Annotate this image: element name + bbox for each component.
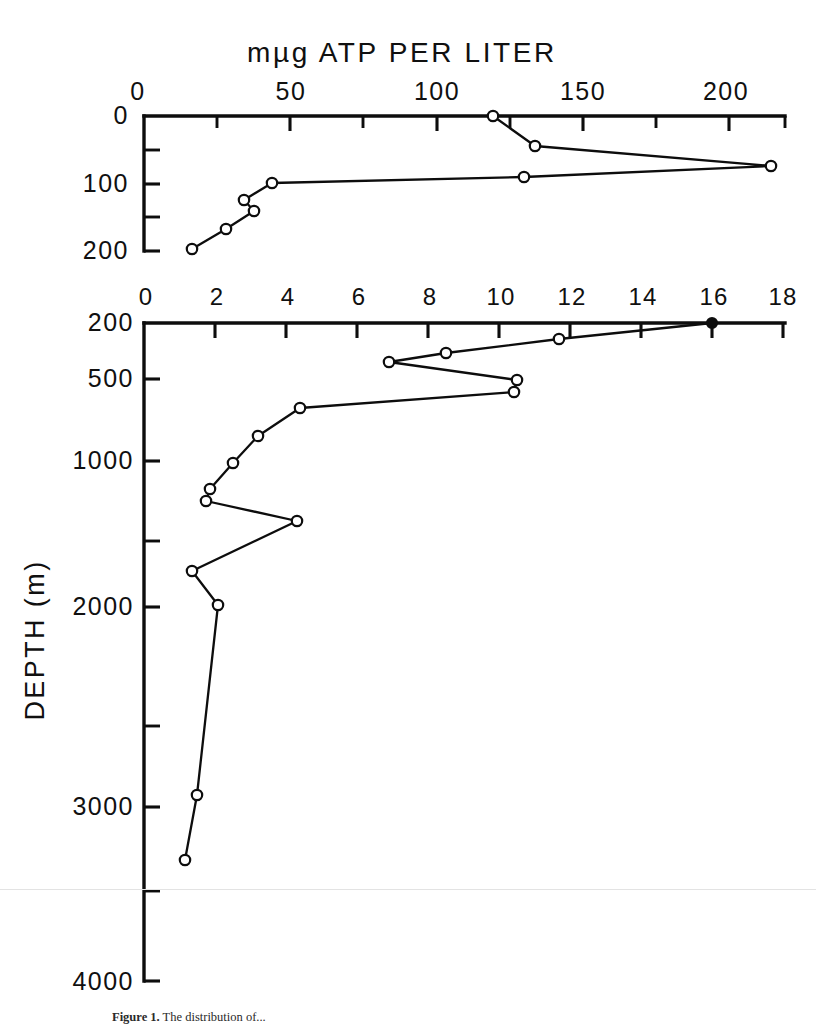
data-point bbox=[295, 403, 305, 413]
lower-x-tick-label-4: 4 bbox=[281, 283, 296, 310]
data-point bbox=[267, 178, 277, 188]
figure-root: mµg ATP PER LITER 0 50 100 150 200 0 100… bbox=[0, 0, 816, 1026]
lower-y-tick-label-500: 500 bbox=[88, 364, 134, 392]
data-point bbox=[221, 224, 231, 234]
data-point bbox=[213, 600, 223, 610]
lower-x-tick-label-2: 2 bbox=[210, 283, 225, 310]
chart-title: mµg ATP PER LITER bbox=[247, 37, 557, 68]
upper-x-tick-label-0: 0 bbox=[130, 77, 145, 105]
lower-y-tick-label-200: 200 bbox=[88, 308, 134, 336]
page-scan-hairline bbox=[0, 889, 816, 890]
data-point bbox=[180, 855, 190, 865]
lower-y-tick-label-4000: 4000 bbox=[72, 967, 134, 995]
upper-y-ticks bbox=[144, 150, 160, 251]
lower-x-tick-labels: 0 2 4 6 8 10 12 14 16 18 bbox=[139, 283, 798, 310]
data-point bbox=[187, 566, 197, 576]
caption-text: The distribution of... bbox=[163, 1010, 266, 1024]
lower-y-ticks bbox=[144, 379, 160, 981]
lower-x-tick-label-8: 8 bbox=[423, 283, 438, 310]
lower-y-tick-labels: 200 500 1000 2000 3000 4000 bbox=[72, 308, 134, 995]
figure-caption: Figure 1. The distribution of... bbox=[112, 1009, 772, 1026]
data-point bbox=[253, 431, 263, 441]
y-axis-title: DEPTH (m) bbox=[20, 559, 50, 720]
lower-y-tick-label-3000: 3000 bbox=[72, 792, 134, 820]
lower-y-tick-label-1000: 1000 bbox=[72, 446, 134, 474]
data-point bbox=[519, 172, 529, 182]
atp-depth-profile-figure: mµg ATP PER LITER 0 50 100 150 200 0 100… bbox=[0, 0, 816, 1026]
data-point bbox=[201, 496, 211, 506]
upper-y-tick-label-100: 100 bbox=[83, 169, 129, 197]
lower-data-markers bbox=[180, 318, 717, 865]
upper-data-line bbox=[192, 116, 771, 249]
data-point bbox=[292, 516, 302, 526]
data-point-filled bbox=[707, 318, 717, 328]
lower-data-line bbox=[185, 323, 712, 860]
upper-x-tick-label-50: 50 bbox=[276, 77, 307, 105]
data-point bbox=[441, 348, 451, 358]
upper-data-markers bbox=[187, 111, 776, 254]
lower-y-tick-label-2000: 2000 bbox=[72, 592, 134, 620]
lower-x-tick-label-12: 12 bbox=[557, 283, 586, 310]
lower-x-tick-label-0: 0 bbox=[139, 283, 154, 310]
upper-x-tick-label-100: 100 bbox=[414, 77, 460, 105]
data-point bbox=[530, 141, 540, 151]
data-point bbox=[228, 458, 238, 468]
upper-x-tick-label-200: 200 bbox=[703, 77, 749, 105]
upper-y-tick-labels: 0 100 200 bbox=[83, 101, 129, 264]
data-point bbox=[384, 357, 394, 367]
lower-x-tick-label-6: 6 bbox=[352, 283, 367, 310]
upper-panel: mµg ATP PER LITER 0 50 100 150 200 0 100… bbox=[83, 37, 785, 264]
data-point bbox=[488, 111, 498, 121]
upper-x-tick-label-150: 150 bbox=[560, 77, 606, 105]
data-point bbox=[512, 375, 522, 385]
data-point bbox=[192, 790, 202, 800]
lower-x-tick-label-18: 18 bbox=[768, 283, 797, 310]
lower-x-tick-label-10: 10 bbox=[486, 283, 515, 310]
data-point bbox=[554, 334, 564, 344]
data-point bbox=[187, 244, 197, 254]
upper-y-tick-label-0: 0 bbox=[114, 101, 129, 129]
upper-x-tick-labels: 0 50 100 150 200 bbox=[130, 77, 749, 105]
caption-label: Figure 1. bbox=[112, 1010, 160, 1024]
data-point bbox=[509, 387, 519, 397]
data-point bbox=[205, 484, 215, 494]
data-point bbox=[766, 161, 776, 171]
upper-y-tick-label-200: 200 bbox=[83, 236, 129, 264]
upper-x-ticks bbox=[217, 116, 785, 131]
data-point bbox=[239, 195, 249, 205]
data-point bbox=[249, 206, 259, 216]
lower-x-tick-label-16: 16 bbox=[699, 283, 728, 310]
lower-x-tick-label-14: 14 bbox=[628, 283, 657, 310]
